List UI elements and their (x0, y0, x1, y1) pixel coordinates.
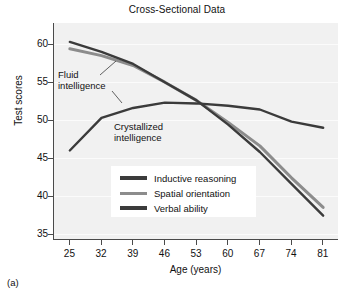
xtick-mark-25 (69, 240, 70, 245)
annotation-crystallized-intelligence: Crystallized intelligence (114, 121, 163, 143)
xtick-mark-32 (101, 240, 102, 245)
xtick-mark-74 (291, 240, 292, 245)
xtick-label-53: 53 (179, 248, 213, 259)
leader-line-crystallized (112, 91, 122, 103)
ytick-label-40: 40 (18, 190, 48, 201)
ytick-mark-55 (48, 82, 53, 83)
ytick-label-60: 60 (18, 38, 48, 49)
ytick-label-45: 45 (18, 152, 48, 163)
xtick-label-74: 74 (274, 248, 308, 259)
xtick-label-60: 60 (211, 248, 245, 259)
ytick-label-35: 35 (18, 228, 48, 239)
xtick-mark-67 (259, 240, 260, 245)
xtick-mark-53 (196, 240, 197, 245)
legend-swatch-spatial-orientation (120, 192, 147, 195)
legend-swatch-verbal-ability (120, 206, 147, 209)
annotation-crystallized-line1: Crystallized (114, 121, 163, 132)
legend-item-verbal-ability: Verbal ability (120, 201, 208, 215)
chart-legend: Inductive reasoning Spatial orientation … (111, 166, 256, 217)
xtick-mark-60 (227, 240, 228, 245)
series-line-verbal-ability (70, 103, 323, 151)
annotation-fluid-intelligence: Fluid intelligence (58, 69, 106, 91)
legend-item-inductive-reasoning: Inductive reasoning (120, 171, 236, 185)
annotation-crystallized-line2: intelligence (114, 132, 163, 143)
xtick-mark-46 (164, 240, 165, 245)
ytick-mark-40 (48, 196, 53, 197)
xtick-label-25: 25 (52, 248, 86, 259)
ytick-mark-60 (48, 44, 53, 45)
annotation-fluid-line1: Fluid (58, 69, 106, 80)
ytick-mark-35 (48, 234, 53, 235)
ytick-mark-50 (48, 120, 53, 121)
figure-panel: Cross-Sectional Data 60 55 50 45 40 35 T… (0, 0, 354, 300)
ytick-mark-45 (48, 158, 53, 159)
legend-label-spatial-orientation: Spatial orientation (154, 188, 230, 199)
annotation-fluid-line2: intelligence (58, 80, 106, 91)
y-axis-label: Test scores (13, 61, 24, 141)
legend-item-spatial-orientation: Spatial orientation (120, 186, 230, 200)
panel-label: (a) (7, 277, 19, 288)
xtick-label-81: 81 (306, 248, 340, 259)
xtick-mark-39 (132, 240, 133, 245)
legend-label-verbal-ability: Verbal ability (154, 203, 208, 214)
xtick-label-46: 46 (147, 248, 181, 259)
x-axis-label: Age (years) (53, 264, 338, 275)
xtick-label-32: 32 (84, 248, 118, 259)
xtick-label-39: 39 (116, 248, 150, 259)
legend-swatch-inductive-reasoning (120, 176, 147, 179)
chart-title: Cross-Sectional Data (0, 4, 354, 15)
xtick-mark-81 (322, 240, 323, 245)
legend-label-inductive-reasoning: Inductive reasoning (154, 173, 236, 184)
xtick-label-67: 67 (242, 248, 276, 259)
